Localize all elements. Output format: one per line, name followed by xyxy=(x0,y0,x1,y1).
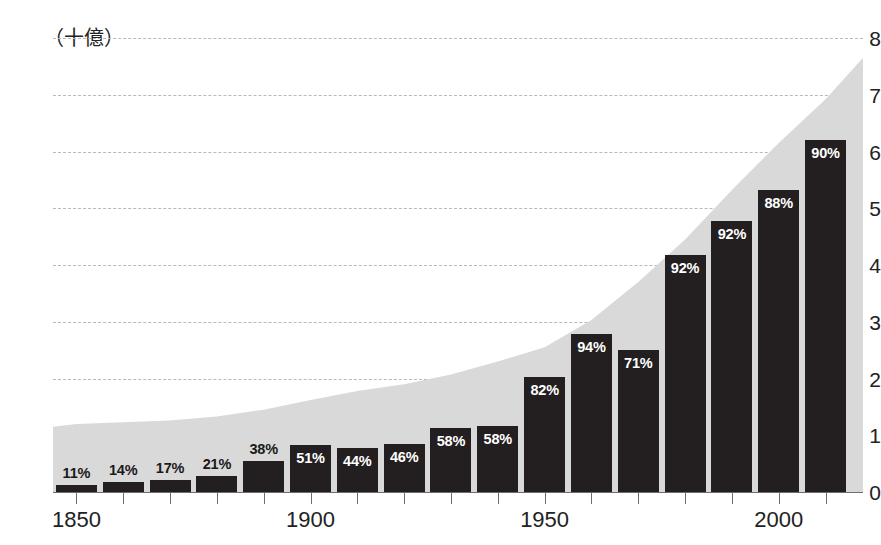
x-tick-1940 xyxy=(498,493,499,504)
bar-1870: 17% xyxy=(150,480,191,492)
bar-value-label-1950: 82% xyxy=(530,383,558,398)
x-tick-1880 xyxy=(217,493,218,504)
bar-value-label-1970: 71% xyxy=(624,356,652,371)
bar-1940: 58% xyxy=(477,426,518,492)
bar-value-label-1850: 11% xyxy=(63,466,91,481)
bar-value-label-1960: 94% xyxy=(577,340,605,355)
bar-1850: 11% xyxy=(56,485,97,492)
bar-1960: 94% xyxy=(571,334,612,492)
bar-1890: 38% xyxy=(243,461,284,492)
bar-1900: 51% xyxy=(290,445,331,492)
bar-value-label-1990: 92% xyxy=(718,227,746,242)
x-tick-1900 xyxy=(311,493,312,504)
bar-1880: 21% xyxy=(196,476,237,492)
bar-value-label-1920: 46% xyxy=(390,450,418,465)
x-tick-label-2000: 2000 xyxy=(754,509,803,531)
x-tick-1950 xyxy=(545,493,546,504)
x-tick-1930 xyxy=(451,493,452,504)
bar-value-label-2000: 88% xyxy=(765,196,793,211)
bar-value-label-1870: 17% xyxy=(156,461,184,476)
bar-value-label-2010: 90% xyxy=(811,146,839,161)
x-tick-1980 xyxy=(685,493,686,504)
bar-1970: 71% xyxy=(618,350,659,492)
x-tick-1970 xyxy=(638,493,639,504)
x-tick-1920 xyxy=(404,493,405,504)
bar-1950: 82% xyxy=(524,377,565,492)
x-tick-1960 xyxy=(591,493,592,504)
bar-2000: 88% xyxy=(758,190,799,492)
bar-value-label-1890: 38% xyxy=(249,442,277,457)
bar-1910: 44% xyxy=(337,448,378,492)
bar-1980: 92% xyxy=(665,255,706,492)
bar-value-label-1940: 58% xyxy=(484,432,512,447)
bar-value-label-1930: 58% xyxy=(437,434,465,449)
x-tick-1910 xyxy=(357,493,358,504)
x-tick-1850 xyxy=(76,493,77,504)
bar-2010: 90% xyxy=(805,140,846,492)
bar-1930: 58% xyxy=(430,428,471,492)
x-tick-label-1900: 1900 xyxy=(286,509,335,531)
bar-1990: 92% xyxy=(711,221,752,492)
bar-value-label-1900: 51% xyxy=(296,451,324,466)
x-tick-1890 xyxy=(264,493,265,504)
bar-1860: 14% xyxy=(103,482,144,492)
x-tick-label-1850: 1850 xyxy=(52,509,101,531)
x-tick-2000 xyxy=(779,493,780,504)
x-tick-2010 xyxy=(826,493,827,504)
x-tick-1860 xyxy=(123,493,124,504)
bar-value-label-1910: 44% xyxy=(343,454,371,469)
x-tick-1870 xyxy=(170,493,171,504)
x-tick-1990 xyxy=(732,493,733,504)
population-bar-chart: 012345678（十億） 11%14%17%21%38%51%44%46%58… xyxy=(0,0,881,545)
bar-value-label-1880: 21% xyxy=(203,457,231,472)
bar-value-label-1860: 14% xyxy=(109,463,137,478)
x-tick-label-1950: 1950 xyxy=(520,509,569,531)
bar-1920: 46% xyxy=(384,444,425,492)
bar-value-label-1980: 92% xyxy=(671,261,699,276)
plot-area: 11%14%17%21%38%51%44%46%58%58%82%94%71%9… xyxy=(53,38,863,492)
x-axis-line xyxy=(53,492,863,493)
